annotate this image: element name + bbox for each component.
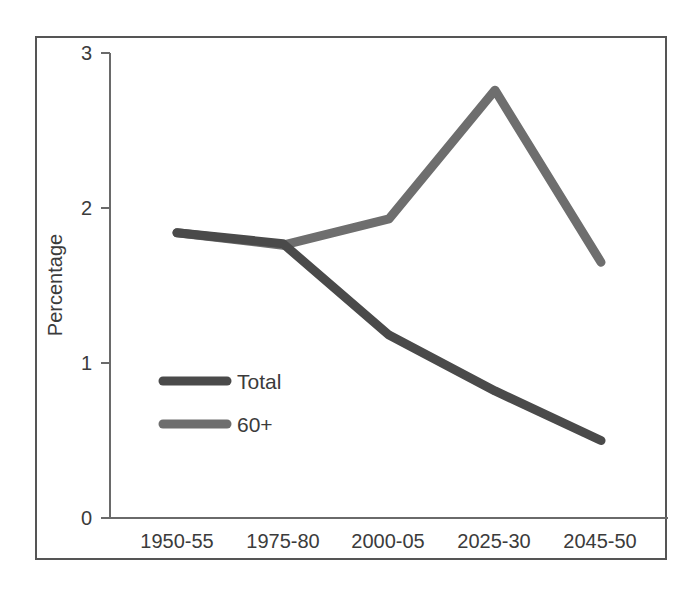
- x-tick-label-1950-55: 1950-55: [140, 530, 213, 552]
- y-tick-label-3: 3: [81, 42, 92, 64]
- legend-label-60-plus: 60+: [237, 413, 273, 436]
- x-tick-label-2045-50: 2045-50: [563, 530, 636, 552]
- line-chart: 3 2 1 0 Percentage 1950-55 1975-80 2000-…: [0, 0, 692, 594]
- series-line-total: [177, 233, 601, 441]
- x-tick-label-2025-30: 2025-30: [457, 530, 530, 552]
- y-tick-label-1: 1: [81, 352, 92, 374]
- y-axis-title: Percentage: [44, 234, 66, 336]
- figure-container: 3 2 1 0 Percentage 1950-55 1975-80 2000-…: [0, 0, 692, 594]
- x-tick-label-2000-05: 2000-05: [351, 530, 424, 552]
- y-tick-label-0: 0: [81, 507, 92, 529]
- chart-legend: Total 60+: [163, 370, 281, 436]
- y-tick-label-2: 2: [81, 197, 92, 219]
- legend-label-total: Total: [237, 370, 281, 393]
- x-tick-label-1975-80: 1975-80: [246, 530, 319, 552]
